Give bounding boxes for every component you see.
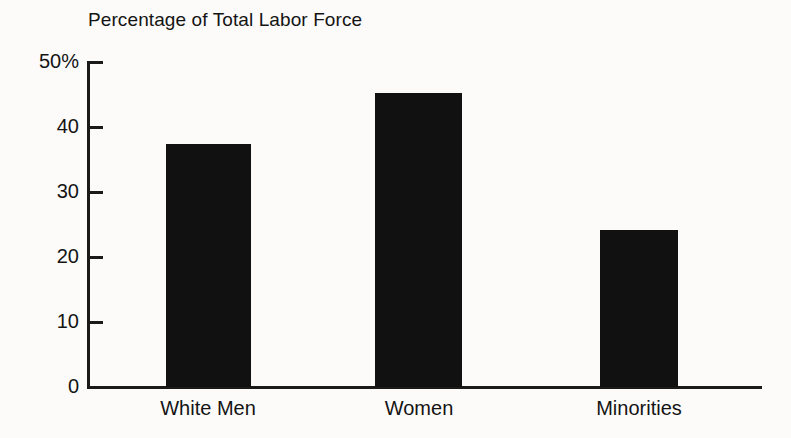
y-axis-tick-label: 40 [0,116,79,136]
bar-minorities [600,230,678,387]
y-axis-tick-label: 10 [0,311,79,331]
y-axis-tick-label-text: 50% [0,51,79,71]
category-label-women: Women [385,396,454,420]
category-label-white-men: White Men [160,396,256,420]
y-axis-tick-label-text: 40 [0,116,79,136]
y-axis-tick-mark [90,191,103,194]
y-axis-tick-mark [90,256,103,259]
chart-page: Percentage of Total Labor Force 01020304… [0,0,791,438]
y-axis-tick-mark [90,126,103,129]
bar-white-men [166,144,251,387]
y-axis-tick-label-text: 0 [0,376,79,396]
category-label-minorities: Minorities [596,396,682,420]
plot-area: 01020304050% White MenWomenMinorities [0,0,791,438]
y-axis-tick-mark [90,61,103,64]
y-axis-line [87,61,90,389]
y-axis-tick-label-text: 10 [0,311,79,331]
y-axis-tick-mark [90,321,103,324]
y-axis-tick-label: 30 [0,181,79,201]
y-axis-tick-label: 0 [0,376,79,396]
y-axis-tick-label: 20 [0,246,79,266]
y-axis-tick-label-text: 30 [0,181,79,201]
y-axis-tick-label: 50% [0,51,79,71]
bar-women [375,93,462,387]
y-axis-tick-label-text: 20 [0,246,79,266]
